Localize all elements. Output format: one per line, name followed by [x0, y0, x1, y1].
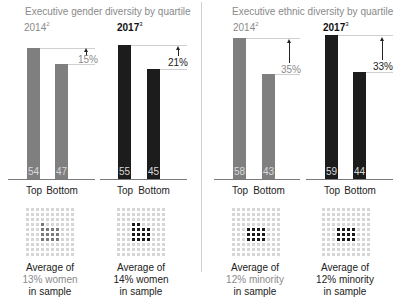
dot — [262, 248, 265, 251]
dot — [66, 223, 69, 226]
dot — [66, 243, 69, 246]
dot — [322, 243, 325, 246]
dot — [362, 218, 365, 221]
dot — [357, 243, 360, 246]
dot — [122, 233, 125, 236]
dot — [162, 253, 165, 256]
dot — [162, 218, 165, 221]
dot — [137, 233, 140, 236]
dot — [272, 208, 275, 211]
dot — [132, 233, 135, 236]
dot — [71, 248, 74, 251]
dot — [332, 238, 335, 241]
dot — [152, 208, 155, 211]
dot — [262, 228, 265, 231]
dot — [41, 223, 44, 226]
dot — [242, 213, 245, 216]
dot — [347, 238, 350, 241]
dot — [66, 253, 69, 256]
dot — [322, 228, 325, 231]
dot — [147, 243, 150, 246]
dot — [26, 243, 29, 246]
arrow-icon — [289, 42, 290, 63]
dot — [342, 248, 345, 251]
dot — [61, 223, 64, 226]
dot — [247, 228, 250, 231]
dot — [66, 248, 69, 251]
dot — [327, 238, 330, 241]
dot — [352, 233, 355, 236]
dot — [247, 233, 250, 236]
reference-line — [160, 69, 187, 70]
dot — [322, 248, 325, 251]
dot — [31, 223, 34, 226]
dot — [347, 208, 350, 211]
dot — [61, 238, 64, 241]
dot — [36, 208, 39, 211]
dot — [137, 228, 140, 231]
bar-gender-2017-top: 55 — [118, 45, 131, 179]
dot — [277, 243, 280, 246]
dot — [46, 233, 49, 236]
dot — [322, 213, 325, 216]
x-label-bottom: Bottom — [249, 185, 289, 196]
dot — [26, 238, 29, 241]
dot — [127, 208, 130, 211]
arrow-head-icon — [84, 48, 88, 52]
arrow-head-icon — [380, 37, 384, 41]
dot — [162, 243, 165, 246]
dot — [137, 208, 140, 211]
dot — [41, 243, 44, 246]
dot — [66, 213, 69, 216]
dot — [242, 218, 245, 221]
dot — [122, 228, 125, 231]
dot — [252, 238, 255, 241]
dot — [272, 228, 275, 231]
dot — [142, 213, 145, 216]
dot — [357, 248, 360, 251]
dot — [332, 218, 335, 221]
dot — [352, 253, 355, 256]
dot — [242, 253, 245, 256]
dot — [152, 223, 155, 226]
dot — [332, 243, 335, 246]
dot — [152, 233, 155, 236]
dot — [322, 253, 325, 256]
dot-grid-ethnic-2014 — [232, 208, 281, 257]
dot — [137, 223, 140, 226]
dot — [327, 228, 330, 231]
dot — [272, 248, 275, 251]
dot — [337, 248, 340, 251]
dot — [242, 233, 245, 236]
dot — [262, 218, 265, 221]
dot — [46, 243, 49, 246]
arrow-head-icon — [287, 39, 291, 43]
dot — [332, 208, 335, 211]
dot — [41, 238, 44, 241]
dot — [257, 208, 260, 211]
dot — [31, 238, 34, 241]
dot — [147, 228, 150, 231]
dot — [367, 223, 370, 226]
dot — [31, 248, 34, 251]
dot — [262, 233, 265, 236]
difference-label: 15% — [78, 54, 98, 65]
dot — [127, 238, 130, 241]
dot — [362, 253, 365, 256]
dot — [152, 218, 155, 221]
dot — [232, 223, 235, 226]
dot — [36, 248, 39, 251]
dot — [66, 233, 69, 236]
dot — [122, 243, 125, 246]
dot — [26, 228, 29, 231]
dot — [337, 243, 340, 246]
dot — [36, 238, 39, 241]
dot — [357, 218, 360, 221]
dot — [162, 223, 165, 226]
bar-ethnic-2017-top: 59 — [325, 35, 338, 179]
dot — [56, 248, 59, 251]
dot — [147, 238, 150, 241]
dot — [232, 238, 235, 241]
dot — [51, 213, 54, 216]
dot — [157, 228, 160, 231]
